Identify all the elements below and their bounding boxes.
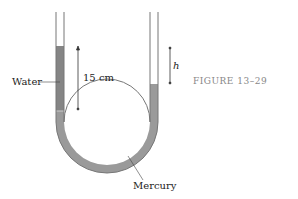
water-column [56,46,64,111]
h-label: h [173,60,179,71]
figure-caption: FIGURE 13–29 [193,76,267,86]
u-tube-diagram [0,0,298,199]
dimension-h [169,47,171,84]
mercury-label: Mercury [133,180,176,191]
water-label: Water [12,76,42,87]
dimension-15cm [77,46,80,110]
height-label: 15 cm [83,72,114,83]
